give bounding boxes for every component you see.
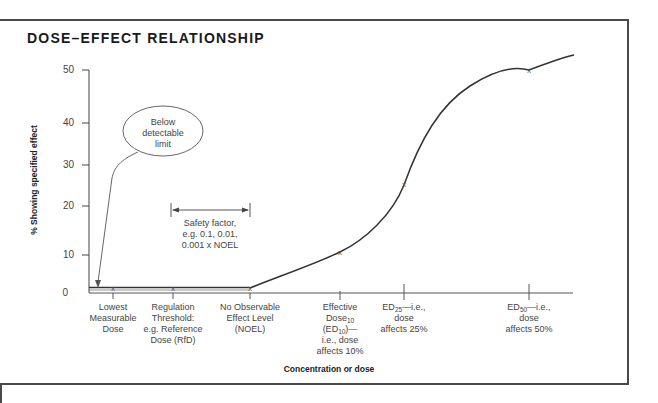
x-axis-label: Concentration or dose (0, 364, 658, 374)
x-label-ed25: ED25—i.e., dose affects 25% (359, 302, 449, 335)
bubble-text: Below detectable limit (133, 117, 193, 150)
svg-text:x: x (171, 284, 175, 293)
x-label-ed50: ED50—i.e., dose affects 50% (484, 302, 574, 335)
svg-text:x: x (111, 284, 115, 293)
y-axis-label: % Showing specified effect (29, 120, 39, 240)
dose-effect-curve (250, 55, 574, 288)
y-tick-0: 0 (50, 287, 68, 298)
bubble-pointer-line (98, 152, 138, 282)
y-tick-50: 50 (56, 64, 74, 75)
y-tick-20: 20 (56, 200, 74, 211)
svg-text:x: x (402, 180, 406, 189)
y-tick-10: 10 (56, 249, 74, 260)
y-tick-30: 30 (56, 159, 74, 170)
y-tick-40: 40 (56, 117, 74, 128)
svg-text:x: x (338, 248, 342, 257)
y-axis-ticks (82, 70, 89, 255)
safety-factor-text: Safety factor, e.g. 0.1, 0.01, 0.001 x N… (160, 218, 260, 251)
arrow-right-icon (242, 208, 249, 213)
arrow-left-icon (172, 208, 179, 213)
svg-text:x: x (527, 66, 531, 75)
svg-text:x: x (248, 284, 252, 293)
data-point-markers: x x x x x x (111, 66, 531, 293)
x-axis-ticks (113, 284, 529, 300)
x-label-noel: No Observable Effect Level (NOEL) (205, 302, 295, 335)
safety-factor-bracket (171, 203, 250, 217)
